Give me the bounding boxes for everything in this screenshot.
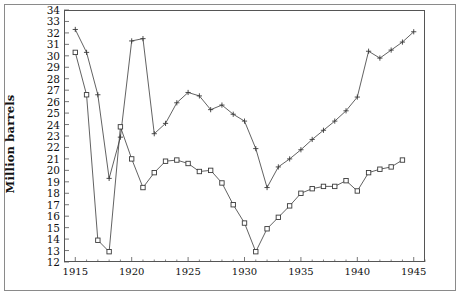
marker-square: [333, 184, 337, 188]
plot-area: [64, 10, 425, 262]
y-tick-label: 16: [38, 211, 60, 222]
y-axis-title-text: Million barrels: [2, 94, 16, 193]
y-tick-label: 21: [38, 154, 60, 165]
y-tick-label: 24: [38, 120, 60, 131]
y-axis-title: Million barrels: [0, 0, 18, 287]
y-tick-label: 17: [38, 200, 60, 211]
x-tick-label: 1925: [168, 267, 208, 277]
marker-square: [197, 169, 201, 173]
marker-square: [321, 184, 325, 188]
x-tick-label: 1945: [394, 267, 434, 277]
marker-square: [287, 204, 291, 208]
marker-square: [208, 168, 212, 172]
marker-square: [265, 227, 269, 231]
x-tick-label: 1920: [112, 267, 152, 277]
marker-square: [378, 167, 382, 171]
y-tick-label: 29: [38, 62, 60, 73]
y-tick-label: 23: [38, 131, 60, 142]
marker-square: [366, 170, 370, 174]
marker-square: [73, 50, 77, 54]
y-tick-label: 22: [38, 142, 60, 153]
y-tick-label: 20: [38, 165, 60, 176]
x-tick-label: 1935: [281, 267, 321, 277]
y-tick-label: 12: [38, 257, 60, 268]
y-tick-label: 27: [38, 85, 60, 96]
x-tick-label: 1940: [337, 267, 377, 277]
marker-square: [242, 221, 246, 225]
marker-square: [344, 178, 348, 182]
y-tick-label: 18: [38, 188, 60, 199]
marker-square: [389, 165, 393, 169]
x-tick-label: 1915: [55, 267, 95, 277]
y-tick-label: 32: [38, 28, 60, 39]
marker-square: [107, 249, 111, 253]
series-plus-line: [75, 29, 413, 187]
marker-square: [186, 161, 190, 165]
marker-square: [299, 191, 303, 195]
marker-square: [400, 158, 404, 162]
marker-square: [129, 157, 133, 161]
chart-figure: Million barrels 121314151617181920212223…: [0, 0, 462, 304]
y-tick-label: 33: [38, 16, 60, 27]
marker-square: [276, 215, 280, 219]
y-tick-label: 13: [38, 246, 60, 257]
marker-square: [152, 170, 156, 174]
marker-square: [310, 186, 314, 190]
marker-square: [355, 189, 359, 193]
marker-square: [175, 158, 179, 162]
y-tick-label: 28: [38, 74, 60, 85]
y-tick-label: 19: [38, 177, 60, 188]
x-axis-tick-labels: 1915192019251930193519401945: [64, 266, 425, 282]
y-tick-label: 34: [38, 5, 60, 16]
series-square-line: [75, 52, 402, 251]
marker-square: [96, 238, 100, 242]
y-tick-label: 30: [38, 51, 60, 62]
y-tick-label: 25: [38, 108, 60, 119]
series-plus: [73, 27, 417, 190]
marker-square: [163, 159, 167, 163]
data-layer: [64, 10, 425, 262]
marker-square: [231, 203, 235, 207]
y-axis-tick-labels: 1213141516171819202122232425262728293031…: [36, 10, 60, 262]
x-tick-label: 1930: [225, 267, 265, 277]
y-tick-label: 14: [38, 234, 60, 245]
y-tick-label: 31: [38, 39, 60, 50]
marker-square: [220, 181, 224, 185]
marker-square: [254, 249, 258, 253]
series-square: [73, 50, 405, 254]
y-tick-label: 15: [38, 223, 60, 234]
y-tick-label: 26: [38, 97, 60, 108]
marker-square: [118, 125, 122, 129]
marker-square: [141, 185, 145, 189]
marker-square: [84, 93, 88, 97]
